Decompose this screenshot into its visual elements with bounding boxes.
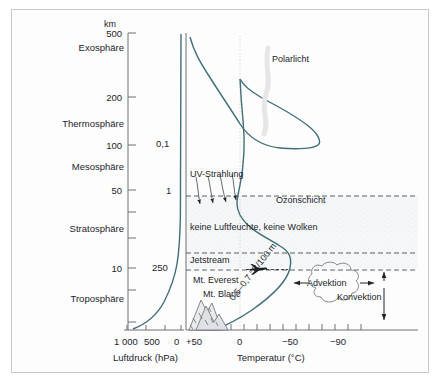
pressure-label-250: 250 [152,263,168,273]
atmosphere-diagram: km 500 200 100 50 10 Exosphäre Thermosph… [0,0,440,382]
altitude-tick-100: 100 [86,141,122,151]
pressure-axis-title: Luftdruck (hPa) [113,353,178,363]
layer-label-mesosphaere: Mesosphäre [14,162,124,172]
temperature-tick-minus50: −50 [282,337,298,347]
pressure-label-0-1: 0,1 [156,139,169,149]
temperature-tick-0: 0 [237,337,242,347]
layer-label-exosphaere: Exosphäre [14,43,124,53]
temperature-axis-title: Temperatur (°C) [237,353,305,363]
polarlicht-wisp [264,48,268,134]
diagram-canvas [0,0,440,382]
altitude-tick-200: 200 [86,93,122,103]
pressure-tick-1000: 1 000 [114,337,138,347]
annotation-ozonschicht: Ozonschicht [276,196,326,205]
annotation-uv-strahlung: UV-Strahlung [190,170,244,179]
layer-label-stratosphaere: Stratosphäre [14,224,124,234]
layer-label-troposphaere: Troposphäre [14,294,124,304]
pressure-tick-500: 500 [144,337,160,347]
temperature-tick-plus50: +50 [186,337,202,347]
annotation-jetstream: Jetstream [190,256,230,265]
annotation-polarlicht: Polarlicht [272,55,309,64]
annotation-mt-everest: Mt. Everest [193,276,239,285]
mountain-sketch [189,300,228,330]
pressure-label-1: 1 [166,186,171,196]
pressure-tick-0: 0 [174,337,179,347]
pressure-curve [133,34,181,329]
temperature-tick-minus90: −90 [330,337,346,347]
altitude-tick-50: 50 [86,186,122,196]
altitude-tick-500: 500 [86,29,122,39]
altitude-ticks [128,33,136,322]
altitude-tick-10: 10 [86,264,122,274]
layer-label-thermosphaere: Thermosphäre [14,119,124,129]
annotation-keine-luftfeuchte: keine Luftfeuchte, keine Wolken [190,223,317,232]
annotation-advektion: Advektion [307,279,347,288]
annotation-konvektion: Konvektion [337,293,382,302]
